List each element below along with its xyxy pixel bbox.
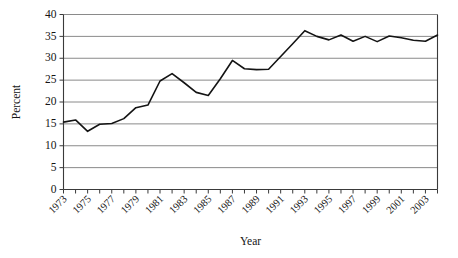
- x-tick-label: 1981: [143, 193, 166, 216]
- x-tick-label: 1985: [191, 193, 214, 216]
- y-tick-label: 35: [45, 30, 57, 42]
- x-tick-labels: 1973197519771979198119831985198719891991…: [46, 193, 431, 216]
- data-series-line: [64, 31, 438, 132]
- y-tick-label: 25: [45, 73, 57, 85]
- x-tick-label: 1993: [288, 193, 311, 216]
- y-tick-label: 30: [45, 51, 57, 63]
- line-chart-figure: 0510152025303540 19731975197719791981198…: [0, 0, 458, 258]
- y-tick-label: 40: [45, 8, 57, 20]
- x-tick-label: 1983: [167, 193, 190, 216]
- x-tick-label: 2001: [384, 193, 407, 216]
- x-tick-label: 1987: [215, 193, 238, 216]
- gridlines-group: [64, 15, 438, 168]
- x-tick-label: 1973: [46, 193, 69, 216]
- x-tick-label: 1995: [312, 193, 335, 216]
- y-tick-label: 15: [45, 117, 57, 129]
- y-tick-label: 0: [51, 183, 57, 195]
- x-tick-label: 1979: [119, 193, 142, 216]
- x-tick-label: 1977: [95, 193, 118, 216]
- x-tick-label: 1997: [336, 193, 359, 216]
- x-tick-label: 1975: [70, 193, 93, 216]
- x-tick-label: 2003: [408, 193, 431, 216]
- y-tick-label: 20: [45, 95, 57, 107]
- x-tick-marks: [64, 190, 438, 194]
- chart-canvas: 0510152025303540 19731975197719791981198…: [0, 0, 458, 258]
- x-tick-label: 1991: [263, 193, 286, 216]
- y-tick-label: 5: [51, 161, 57, 173]
- y-tick-marks: [60, 15, 64, 190]
- y-tick-label: 10: [45, 139, 57, 151]
- x-tick-label: 1989: [239, 193, 262, 216]
- y-axis-title: Percent: [10, 84, 22, 119]
- x-tick-label: 1999: [360, 193, 383, 216]
- x-axis-title: Year: [240, 235, 261, 247]
- y-tick-labels: 0510152025303540: [45, 8, 57, 195]
